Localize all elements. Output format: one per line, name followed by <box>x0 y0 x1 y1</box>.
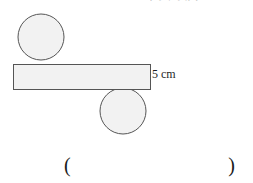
rectangle-bar <box>14 65 151 90</box>
answer-close-paren: ) <box>228 154 235 176</box>
answer-blank[interactable]: ( ) <box>58 154 241 178</box>
dimension-label-5cm: 5 cm <box>152 68 176 81</box>
circle-top-icon <box>18 14 64 60</box>
answer-open-paren: ( <box>64 154 71 176</box>
answer-input-space[interactable] <box>78 154 221 176</box>
circle-bottom-icon <box>100 88 146 134</box>
figure-stage: ( 2 + 2 4 ), 5 cm ( ) <box>0 0 253 183</box>
